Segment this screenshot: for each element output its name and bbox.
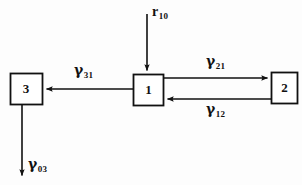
compartment-diagram: 3 1 2 r10 γ21 γ12 γ31 γ03 [0,0,302,185]
edge-label-gamma12-sub: 12 [216,109,225,119]
node-label-3: 3 [10,82,42,95]
edge-label-gamma21-sub: 21 [216,61,225,71]
edge-label-gamma21: γ21 [206,53,225,71]
edge-label-gamma12: γ12 [206,101,225,119]
edge-label-r10: r10 [152,3,168,21]
edge-label-r10-sub: 10 [159,11,168,21]
edge-label-gamma31-base: γ [74,62,83,78]
edge-label-gamma12-base: γ [206,101,215,117]
edge-label-gamma03: γ03 [28,156,47,174]
edge-label-r10-base: r [152,4,158,19]
edge-label-gamma03-base: γ [28,156,37,172]
node-label-1: 1 [133,83,164,96]
edge-label-gamma31-sub: 31 [84,70,93,80]
edge-label-gamma21-base: γ [206,53,215,69]
edge-label-gamma03-sub: 03 [38,164,47,174]
node-label-2: 2 [271,81,298,94]
edge-label-gamma31: γ31 [74,62,93,80]
